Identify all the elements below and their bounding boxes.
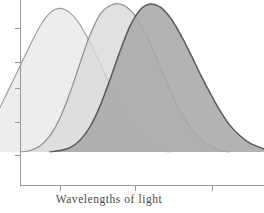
- curves-layer: [0, 4, 264, 152]
- x-axis-title: Wavelengths of light: [0, 193, 218, 205]
- spectral-sensitivity-figure: Wavelengths of light: [0, 0, 264, 213]
- plot-area: [0, 0, 264, 213]
